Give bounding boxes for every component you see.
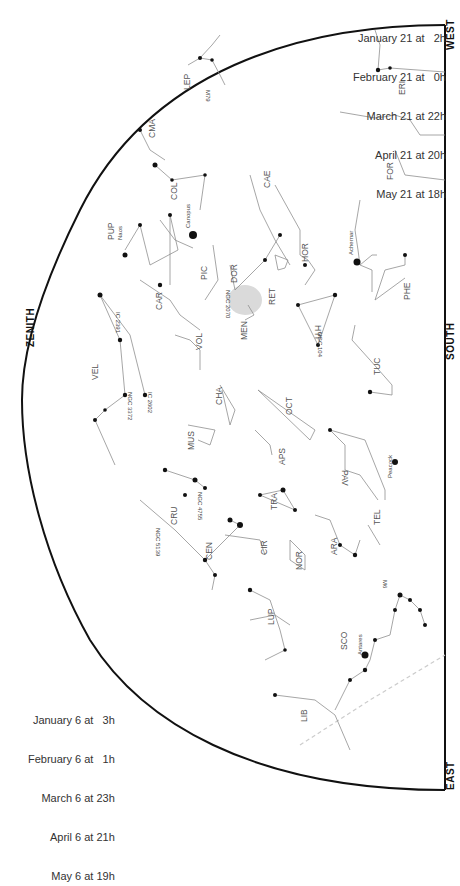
svg-text:LEP: LEP bbox=[182, 74, 192, 90]
svg-text:NGC 4755: NGC 4755 bbox=[197, 492, 203, 521]
svg-text:PIC: PIC bbox=[199, 266, 209, 280]
svg-text:TEL: TEL bbox=[372, 509, 382, 525]
svg-text:DOR: DOR bbox=[229, 264, 239, 283]
svg-text:Achernar: Achernar bbox=[348, 231, 354, 255]
svg-text:NGC 2070: NGC 2070 bbox=[225, 290, 231, 319]
svg-text:CIR: CIR bbox=[259, 540, 269, 555]
svg-text:VEL: VEL bbox=[90, 364, 100, 380]
svg-text:NGC 5139: NGC 5139 bbox=[155, 528, 161, 557]
svg-text:ARA: ARA bbox=[329, 537, 339, 555]
dates-table-left: January 6 at 3h February 6 at 1h March 6… bbox=[28, 688, 115, 886]
svg-text:TRA: TRA bbox=[269, 493, 279, 510]
direction-east-label: EAST bbox=[445, 761, 456, 790]
svg-text:Canopus: Canopus bbox=[185, 204, 191, 228]
ecliptic-line bbox=[300, 655, 445, 745]
svg-text:CAE: CAE bbox=[262, 170, 272, 188]
svg-text:PUP: PUP bbox=[106, 222, 116, 240]
date-row: May 6 at 19h bbox=[28, 870, 115, 883]
svg-text:PAV: PAV bbox=[340, 470, 350, 486]
svg-text:OCT: OCT bbox=[284, 397, 294, 415]
svg-text:TUC: TUC bbox=[372, 358, 382, 375]
date-row: March 21 at 22h bbox=[353, 110, 446, 123]
svg-text:Naos: Naos bbox=[117, 226, 123, 240]
svg-text:Antares: Antares bbox=[357, 634, 363, 655]
dates-table-right: January 21 at 2h February 21 at 0h March… bbox=[353, 6, 446, 214]
svg-text:CEN: CEN bbox=[204, 542, 214, 560]
svg-text:RET: RET bbox=[267, 288, 277, 305]
svg-text:APS: APS bbox=[277, 448, 287, 465]
date-row: February 6 at 1h bbox=[28, 753, 115, 766]
object-labels: Canopus Naos Achernar Peacock Antares NG… bbox=[115, 90, 393, 655]
svg-text:MEN: MEN bbox=[239, 321, 249, 340]
date-row: May 21 at 18h bbox=[353, 188, 446, 201]
svg-text:CMA: CMA bbox=[147, 119, 157, 138]
svg-text:Peacock: Peacock bbox=[387, 454, 393, 478]
direction-west-label: WEST bbox=[445, 19, 456, 50]
svg-text:SCO: SCO bbox=[339, 631, 349, 650]
svg-text:IC 2391: IC 2391 bbox=[115, 312, 121, 334]
svg-text:CHA: CHA bbox=[214, 387, 224, 405]
svg-text:PHE: PHE bbox=[402, 282, 412, 300]
svg-text:COL: COL bbox=[169, 182, 179, 200]
svg-text:MUS: MUS bbox=[186, 431, 196, 450]
date-row: April 21 at 20h bbox=[353, 149, 446, 162]
direction-south-label: SOUTH bbox=[445, 323, 456, 361]
svg-text:M6: M6 bbox=[382, 580, 388, 589]
date-row: April 6 at 21h bbox=[28, 831, 115, 844]
lmc-nebula bbox=[228, 285, 262, 315]
svg-text:HOR: HOR bbox=[300, 243, 310, 262]
svg-text:VOL: VOL bbox=[194, 333, 204, 350]
svg-text:CAR: CAR bbox=[154, 292, 164, 310]
direction-zenith-label: ZENITH bbox=[25, 308, 36, 347]
date-row: March 6 at 23h bbox=[28, 792, 115, 805]
svg-text:NGC 3372: NGC 3372 bbox=[127, 392, 133, 421]
svg-text:LUP: LUP bbox=[266, 608, 276, 625]
svg-text:CRU: CRU bbox=[169, 507, 179, 525]
svg-text:NGC 104: NGC 104 bbox=[317, 332, 323, 358]
date-row: January 6 at 3h bbox=[28, 714, 115, 727]
svg-text:NOR: NOR bbox=[294, 551, 304, 570]
svg-text:M79: M79 bbox=[205, 90, 211, 102]
svg-text:IC 2602: IC 2602 bbox=[147, 392, 153, 414]
date-row: January 21 at 2h bbox=[353, 32, 446, 45]
svg-text:LIB: LIB bbox=[299, 709, 309, 722]
date-row: February 21 at 0h bbox=[353, 71, 446, 84]
